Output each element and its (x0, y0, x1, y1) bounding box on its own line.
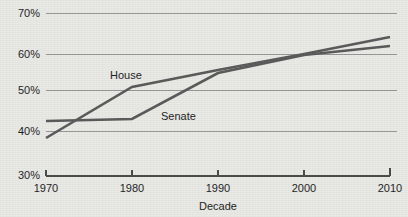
y-tick-label-70: 70% (18, 7, 40, 19)
x-tick-label-2000: 2000 (292, 182, 316, 194)
y-tick-label-60: 60% (18, 48, 40, 60)
y-tick-label-30: 30% (18, 169, 40, 181)
series-label-senate: Senate (161, 110, 196, 122)
series-label-house: House (110, 69, 142, 81)
x-tick-label-1990: 1990 (206, 182, 230, 194)
x-axis-title: Decade (199, 200, 237, 212)
x-tick-label-2010: 2010 (378, 182, 402, 194)
x-axis-labels: 1970 1980 1990 2000 2010 (34, 182, 402, 194)
y-axis-labels: 70% 60% 50% 40% 30% (18, 7, 40, 181)
x-axis-group (46, 168, 390, 176)
x-tick-label-1980: 1980 (120, 182, 144, 194)
y-tick-label-50: 50% (18, 84, 40, 96)
series-line-house (46, 46, 390, 121)
chart-figure: 70% 60% 50% 40% 30% 1970 1980 1990 2000 … (0, 0, 408, 217)
series-group (46, 37, 390, 138)
x-tick-label-1970: 1970 (34, 182, 58, 194)
line-chart-canvas: 70% 60% 50% 40% 30% 1970 1980 1990 2000 … (0, 0, 408, 217)
y-tick-label-40: 40% (18, 125, 40, 137)
